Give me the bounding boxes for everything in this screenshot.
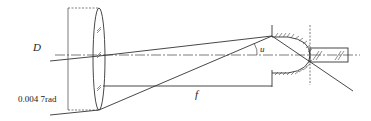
angle-arc-u	[254, 43, 257, 55]
ray-to-mirror-upper	[99, 36, 272, 56]
optical-diagram: D 0.004 7rad f u	[0, 0, 371, 121]
ray-diagonal	[99, 36, 272, 110]
ray-reflected	[272, 36, 353, 91]
mirror-hatch	[275, 33, 312, 75]
label-focal-length: f	[195, 88, 200, 100]
label-angle-rad: 0.004 7rad	[18, 94, 57, 104]
incoming-ray-lower	[50, 110, 99, 115]
label-half-angle: u	[260, 44, 265, 54]
lens-hatch-marks	[97, 27, 101, 91]
rod-hatch	[313, 51, 344, 60]
incoming-ray-upper	[50, 56, 99, 61]
label-diameter: D	[32, 41, 41, 53]
objective-lens	[93, 8, 105, 110]
